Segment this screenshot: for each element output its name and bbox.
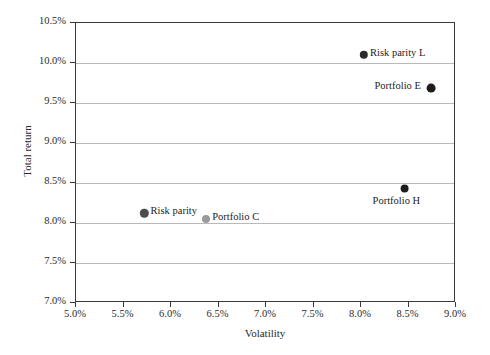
data-point[interactable] [400,184,409,193]
y-axis-tick [70,62,75,63]
x-axis-tick [408,302,409,307]
x-axis-tick [360,302,361,307]
data-point-label: Risk parity L [370,47,425,58]
x-axis-tick [170,302,171,307]
data-point[interactable] [360,51,368,59]
data-point[interactable] [427,83,436,92]
y-axis-tick [70,182,75,183]
gridline [76,223,454,224]
x-axis-tick [123,302,124,307]
gridline [76,263,454,264]
gridline [76,63,454,64]
x-axis-tick [455,302,456,307]
y-axis-tick-label: 10.0% [20,55,66,66]
x-axis-tick-label: 9.0% [425,308,485,319]
gridline [76,103,454,104]
data-point-label: Portfolio E [0,80,421,91]
y-axis-tick [70,222,75,223]
scatter-chart-figure: 7.0%7.5%8.0%8.5%9.0%9.5%10.0%10.5% 5.0%5… [0,0,490,355]
data-point-label: Portfolio C [212,211,259,222]
y-axis-tick-label: 7.5% [20,255,66,266]
x-axis-tick [313,302,314,307]
data-point-label: Portfolio H [0,195,420,206]
plot-area [75,22,455,302]
y-axis-tick-label: 9.5% [20,95,66,106]
data-point[interactable] [202,215,210,223]
y-axis-tick [70,22,75,23]
data-point-label: Risk parity [151,205,197,216]
y-axis-tick-label: 10.5% [20,15,66,26]
x-axis-title: Volatility [75,327,455,339]
gridline [76,143,454,144]
y-axis-tick [70,142,75,143]
gridline [76,183,454,184]
x-axis-tick [218,302,219,307]
y-axis-tick [70,102,75,103]
x-axis-tick [265,302,266,307]
y-axis-tick-label: 7.0% [20,295,66,306]
y-axis-tick [70,262,75,263]
x-axis-tick [75,302,76,307]
data-point[interactable] [140,209,148,217]
y-axis-title: Total return [21,106,33,196]
y-axis-tick-label: 8.0% [20,215,66,226]
